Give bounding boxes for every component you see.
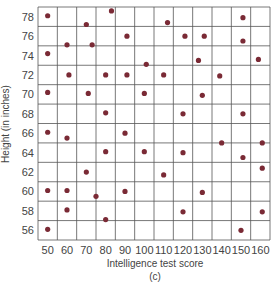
x-tick-label: 110 xyxy=(155,244,173,256)
data-point xyxy=(240,15,245,20)
y-tick-label: 56 xyxy=(22,224,34,236)
data-point xyxy=(182,34,187,39)
data-point xyxy=(219,140,224,145)
data-point xyxy=(45,188,50,193)
x-tick-label: 50 xyxy=(42,244,54,256)
x-tick-label: 100 xyxy=(135,244,153,256)
x-tick-label: 150 xyxy=(232,244,250,256)
data-point xyxy=(84,169,89,174)
x-tick-label: 120 xyxy=(174,244,192,256)
data-points xyxy=(45,8,265,233)
y-tick-label: 66 xyxy=(22,127,34,139)
x-axis-label: Intelligence test score xyxy=(107,258,204,269)
data-point xyxy=(64,42,69,47)
data-point xyxy=(142,149,147,154)
x-tick-label: 80 xyxy=(100,244,112,256)
data-point xyxy=(217,73,222,78)
x-tick-label: 70 xyxy=(80,244,92,256)
data-point xyxy=(86,91,91,96)
grid xyxy=(38,7,270,240)
data-point xyxy=(238,228,243,233)
data-point xyxy=(64,207,69,212)
y-tick-label: 70 xyxy=(22,88,34,100)
data-point xyxy=(45,227,50,232)
y-tick-label: 58 xyxy=(22,205,34,217)
data-point xyxy=(45,130,50,135)
data-point xyxy=(240,111,245,116)
y-tick-label: 72 xyxy=(22,69,34,81)
x-tick-label: 60 xyxy=(61,244,73,256)
y-tick-label: 64 xyxy=(22,147,34,159)
x-tick-label: 140 xyxy=(212,244,230,256)
x-axis-ticks: 5060708090100110120130140150160 xyxy=(42,244,270,256)
y-tick-label: 60 xyxy=(22,185,34,197)
scatter-chart: 5060708090100110120130140150160 56586062… xyxy=(0,0,273,282)
data-point xyxy=(180,209,185,214)
x-tick-label: 160 xyxy=(251,244,269,256)
data-point xyxy=(161,72,166,77)
data-point xyxy=(103,149,108,154)
data-point xyxy=(200,190,205,195)
data-point xyxy=(109,8,114,13)
data-point xyxy=(180,111,185,116)
x-tick-label: 130 xyxy=(193,244,211,256)
data-point xyxy=(103,110,108,115)
data-point xyxy=(144,62,149,67)
data-point xyxy=(103,72,108,77)
data-point xyxy=(90,42,95,47)
data-point xyxy=(260,209,265,214)
data-point xyxy=(142,91,147,96)
data-point xyxy=(45,51,50,56)
y-tick-label: 78 xyxy=(22,11,34,23)
y-tick-label: 62 xyxy=(22,166,34,178)
chart-caption: (c) xyxy=(149,271,161,282)
data-point xyxy=(180,150,185,155)
data-point xyxy=(260,140,265,145)
data-point xyxy=(64,135,69,140)
data-point xyxy=(202,34,207,39)
data-point xyxy=(240,38,245,43)
data-point xyxy=(45,13,50,18)
data-point xyxy=(93,194,98,199)
data-point xyxy=(196,58,201,63)
y-axis-label: Height (in inches) xyxy=(0,85,11,163)
data-point xyxy=(240,155,245,160)
data-point xyxy=(103,217,108,222)
data-point xyxy=(45,90,50,95)
data-point xyxy=(256,57,261,62)
y-axis-ticks: 565860626466687072747678 xyxy=(22,11,34,237)
y-tick-label: 76 xyxy=(22,30,34,42)
y-tick-label: 74 xyxy=(22,50,34,62)
data-point xyxy=(64,188,69,193)
y-tick-label: 68 xyxy=(22,108,34,120)
data-point xyxy=(124,72,129,77)
data-point xyxy=(161,172,166,177)
x-tick-label: 90 xyxy=(119,244,131,256)
data-point xyxy=(200,93,205,98)
data-point xyxy=(124,34,129,39)
data-point xyxy=(260,166,265,171)
data-point xyxy=(165,20,170,25)
data-point xyxy=(66,72,71,77)
data-point xyxy=(122,131,127,136)
data-point xyxy=(84,22,89,27)
data-point xyxy=(122,189,127,194)
